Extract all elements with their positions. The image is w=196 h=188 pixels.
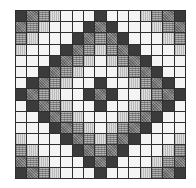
grid-cell-dark bbox=[107, 157, 117, 167]
grid-cell-light-vertical-stripe bbox=[27, 33, 37, 43]
grid-cell-medium-stipple bbox=[39, 101, 49, 111]
grid-cell-white bbox=[61, 157, 71, 167]
grid-cell-medium-stipple bbox=[73, 45, 83, 55]
grid-cell-medium-stipple bbox=[163, 168, 173, 178]
grid-cell-plaid-grid bbox=[152, 89, 162, 99]
grid-cell-white bbox=[73, 168, 83, 178]
grid-cell-light-vertical-stripe bbox=[16, 134, 26, 144]
grid-cell-plaid-grid bbox=[129, 67, 139, 77]
grid-cell-plaid-grid bbox=[118, 56, 128, 66]
grid-cell-plaid-grid bbox=[129, 112, 139, 122]
grid-cell-plaid-grid bbox=[39, 168, 49, 178]
grid-cell-white bbox=[107, 101, 117, 111]
grid-cell-white bbox=[61, 33, 71, 43]
grid-cell-white bbox=[27, 123, 37, 133]
grid-cell-white bbox=[152, 134, 162, 144]
grid-cell-medium-stipple bbox=[118, 45, 128, 55]
grid-cell-white bbox=[73, 157, 83, 167]
grid-cell-white bbox=[95, 112, 105, 122]
grid-cell-plaid-grid bbox=[50, 101, 60, 111]
grid-cell-light-vertical-stripe bbox=[129, 78, 139, 88]
grid-cell-plaid-grid bbox=[16, 33, 26, 43]
grid-cell-dark bbox=[141, 56, 151, 66]
grid-cell-dark bbox=[129, 134, 139, 144]
grid-cell-white bbox=[129, 89, 139, 99]
grid-cell-dark bbox=[73, 145, 83, 155]
grid-cell-white bbox=[118, 11, 128, 21]
grid-cell-white bbox=[61, 89, 71, 99]
grid-cell-medium-stipple bbox=[95, 89, 105, 99]
grid-cell-white bbox=[39, 134, 49, 144]
grid-cell-white bbox=[50, 45, 60, 55]
grid-cell-white bbox=[163, 67, 173, 77]
grid-cell-medium-stipple bbox=[50, 67, 60, 77]
grid-cell-white bbox=[27, 134, 37, 144]
grid-cell-light-vertical-stripe bbox=[141, 89, 151, 99]
grid-cell-dark bbox=[84, 157, 94, 167]
grid-cell-medium-stipple bbox=[73, 134, 83, 144]
grid-cell-light-vertical-stripe bbox=[175, 134, 185, 144]
grid-cell-dark bbox=[175, 11, 185, 21]
grid-cell-white bbox=[107, 67, 117, 77]
grid-cell-light-vertical-stripe bbox=[175, 45, 185, 55]
grid-cell-dark bbox=[50, 56, 60, 66]
grid-cell-white bbox=[27, 112, 37, 122]
grid-cell-medium-stipple bbox=[95, 22, 105, 32]
grid-cell-dark bbox=[73, 33, 83, 43]
grid-cell-light-vertical-stripe bbox=[84, 123, 94, 133]
grid-cell-light-vertical-stripe bbox=[84, 56, 94, 66]
grid-cell-light-vertical-stripe bbox=[39, 22, 49, 32]
grid-cell-plaid-grid bbox=[163, 157, 173, 167]
grid-cell-light-vertical-stripe bbox=[141, 168, 151, 178]
grid-cell-white bbox=[84, 11, 94, 21]
grid-cell-white bbox=[175, 112, 185, 122]
grid-cell-plaid-grid bbox=[84, 134, 94, 144]
grid-cell-dark bbox=[163, 101, 173, 111]
grid-cell-white bbox=[141, 22, 151, 32]
grid-cell-white bbox=[175, 123, 185, 133]
grid-cell-light-vertical-stripe bbox=[61, 78, 71, 88]
grid-cell-white bbox=[141, 157, 151, 167]
grid-cell-dark bbox=[152, 112, 162, 122]
grid-cell-dark bbox=[107, 22, 117, 32]
grid-cell-white bbox=[27, 67, 37, 77]
grid-cell-medium-stipple bbox=[107, 145, 117, 155]
grid-cell-light-vertical-stripe bbox=[107, 123, 117, 133]
grid-cell-medium-stipple bbox=[163, 89, 173, 99]
quilt-pattern-grid bbox=[15, 10, 186, 179]
grid-cell-medium-stipple bbox=[61, 56, 71, 66]
grid-cell-plaid-grid bbox=[27, 157, 37, 167]
grid-cell-light-vertical-stripe bbox=[95, 45, 105, 55]
grid-cell-dark bbox=[39, 112, 49, 122]
grid-cell-plaid-grid bbox=[175, 145, 185, 155]
grid-cell-plaid-grid bbox=[118, 123, 128, 133]
grid-cell-medium-stipple bbox=[84, 145, 94, 155]
grid-cell-white bbox=[61, 168, 71, 178]
grid-cell-medium-stipple bbox=[152, 78, 162, 88]
grid-cell-dark bbox=[129, 45, 139, 55]
grid-cell-white bbox=[61, 22, 71, 32]
grid-cell-white bbox=[141, 145, 151, 155]
grid-cell-white bbox=[152, 123, 162, 133]
grid-cell-medium-stipple bbox=[61, 123, 71, 133]
grid-cell-medium-stipple bbox=[175, 157, 185, 167]
grid-cell-white bbox=[118, 168, 128, 178]
grid-cell-white bbox=[141, 134, 151, 144]
grid-cell-medium-stipple bbox=[175, 22, 185, 32]
grid-cell-white bbox=[129, 33, 139, 43]
grid-cell-dark bbox=[141, 123, 151, 133]
grid-cell-light-vertical-stripe bbox=[163, 145, 173, 155]
grid-cell-plaid-grid bbox=[16, 145, 26, 155]
grid-cell-white bbox=[50, 134, 60, 144]
grid-cell-white bbox=[16, 56, 26, 66]
grid-cell-white bbox=[27, 56, 37, 66]
grid-cell-dark bbox=[16, 11, 26, 21]
grid-cell-dark bbox=[95, 78, 105, 88]
grid-cell-medium-stipple bbox=[84, 33, 94, 43]
grid-cell-light-vertical-stripe bbox=[73, 112, 83, 122]
grid-cell-white bbox=[118, 78, 128, 88]
grid-cell-light-vertical-stripe bbox=[73, 67, 83, 77]
grid-cell-plaid-grid bbox=[39, 89, 49, 99]
grid-cell-white bbox=[39, 145, 49, 155]
grid-cell-white bbox=[129, 11, 139, 21]
